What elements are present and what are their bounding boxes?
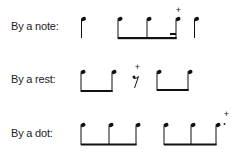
plus-mark: + bbox=[176, 5, 181, 15]
row-note-examples: + bbox=[80, 5, 199, 39]
eighth-note bbox=[80, 16, 86, 38]
beamed-note-group bbox=[80, 69, 117, 92]
music-notation: + + bbox=[0, 0, 232, 155]
beamed-note-group bbox=[163, 122, 221, 145]
row-rest-examples: + bbox=[80, 62, 193, 92]
partial-beam bbox=[170, 33, 176, 35]
plus-mark: + bbox=[224, 109, 229, 119]
plus-mark: + bbox=[135, 62, 140, 72]
augmentation-dot bbox=[224, 123, 226, 125]
beamed-note-group bbox=[80, 122, 141, 145]
beamed-note-group bbox=[156, 69, 193, 91]
beamed-note-group bbox=[117, 16, 181, 39]
eighth-note bbox=[193, 16, 199, 38]
eighth-rest-icon bbox=[133, 76, 139, 89]
row-dot-examples: + bbox=[80, 109, 229, 146]
